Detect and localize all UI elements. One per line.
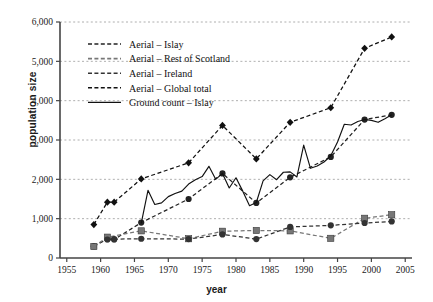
series-1 — [91, 212, 395, 250]
y-tick-label: 1,000 — [32, 214, 54, 224]
y-tick-label: 2,000 — [32, 175, 54, 185]
y-tick-label: 3,000 — [32, 135, 54, 145]
data-series-layer — [90, 33, 395, 249]
legend-label-2: Aerial – Ireland — [129, 68, 192, 79]
chart-legend: Aerial – IslayAerial – Rest of ScotlandA… — [88, 39, 230, 108]
legend-label-3: Aerial – Global total — [129, 83, 212, 94]
data-point-marker — [287, 224, 293, 230]
data-point-marker — [186, 196, 192, 202]
x-axis-ticks: 1955196019651970197519801985199019952000… — [57, 258, 415, 275]
figure: population size year 01,0002,0003,0004,0… — [0, 0, 433, 302]
data-point-marker — [186, 236, 192, 242]
y-tick-label: 4,000 — [32, 96, 54, 106]
data-point-marker — [328, 235, 334, 241]
y-tick-label: 5,000 — [32, 57, 54, 67]
x-tick-label: 2005 — [396, 265, 415, 275]
x-tick-label: 1980 — [227, 265, 246, 275]
x-tick-label: 1955 — [57, 265, 76, 275]
data-point-marker — [328, 222, 334, 228]
data-point-marker — [287, 174, 293, 180]
data-point-marker — [388, 33, 395, 40]
data-point-marker — [90, 221, 97, 228]
chart-canvas: 01,0002,0003,0004,0005,0006,000 19551960… — [0, 0, 433, 302]
x-tick-label: 1995 — [328, 265, 347, 275]
data-point-marker — [104, 199, 111, 206]
x-tick-label: 2000 — [362, 265, 381, 275]
data-point-marker — [104, 236, 110, 242]
x-tick-label: 1960 — [91, 265, 110, 275]
data-point-marker — [138, 236, 144, 242]
x-tick-label: 1970 — [159, 265, 178, 275]
series-0 — [91, 112, 395, 250]
data-point-marker — [327, 104, 334, 111]
y-axis-ticks: 01,0002,0003,0004,0005,0006,000 — [32, 17, 60, 263]
y-tick-label: 6,000 — [32, 17, 54, 27]
data-point-marker — [219, 231, 225, 237]
y-tick-label: 0 — [48, 253, 53, 263]
data-point-marker — [138, 228, 144, 234]
x-tick-label: 1965 — [125, 265, 144, 275]
data-point-marker — [287, 119, 294, 126]
gridlines — [60, 22, 412, 219]
series-line — [94, 37, 392, 225]
legend-label-0: Aerial – Islay — [129, 39, 183, 50]
data-point-marker — [253, 227, 259, 233]
data-point-marker — [362, 220, 368, 226]
x-tick-label: 1985 — [260, 265, 279, 275]
data-point-marker — [361, 45, 368, 52]
x-tick-label: 1990 — [294, 265, 313, 275]
x-tick-label: 1975 — [193, 265, 212, 275]
data-point-marker — [111, 236, 117, 242]
legend-label-1: Aerial – Rest of Scotland — [129, 53, 230, 64]
series-line — [94, 115, 392, 246]
data-point-marker — [389, 212, 395, 218]
data-point-marker — [253, 236, 259, 242]
data-point-marker — [138, 175, 145, 182]
legend-label-4: Ground count – Islay — [129, 97, 214, 108]
data-point-marker — [389, 218, 395, 224]
data-point-marker — [91, 243, 97, 249]
